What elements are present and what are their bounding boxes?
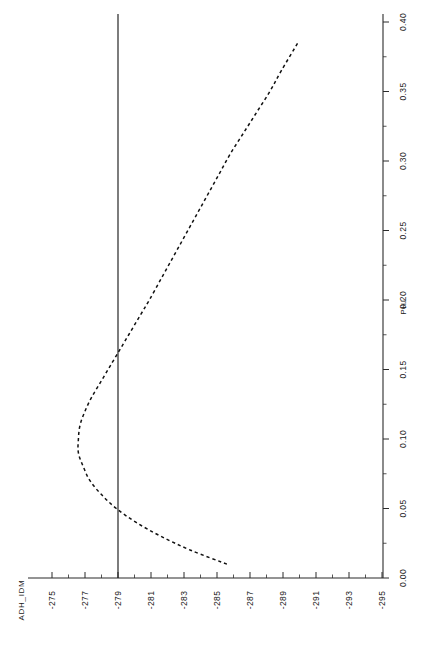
phi-axis-tick-label: 0.30 [398,152,408,170]
value-axis-tick-label: -279 [113,591,123,610]
chart-canvas: -275-277-279-281-283-285-287-289-291-293… [0,0,435,649]
phi-axis-tick-label: 0.10 [398,430,408,448]
curve-path [78,43,298,564]
chart-container: -275-277-279-281-283-285-287-289-291-293… [0,0,435,649]
value-axis-tick-label: -295 [377,591,387,610]
phi-axis-title: PHI [399,299,408,314]
value-axis [28,572,383,578]
phi-axis-tick-label: 0.05 [398,499,408,517]
value-axis-tick-label: -275 [47,591,57,610]
value-axis-title: ADH_IDM [17,580,26,621]
phi-axis-tick-label: 0.25 [398,221,408,239]
phi-axis [383,14,389,578]
value-axis-tick-label: -281 [146,591,156,610]
value-axis-tick-label: -291 [311,591,321,610]
value-axis-tick-label: -285 [212,591,222,610]
value-axis-tick-label: -289 [278,591,288,610]
value-axis-tick-label: -287 [245,591,255,610]
value-axis-tick-label: -277 [80,591,90,610]
phi-axis-tick-label: 0.40 [398,13,408,31]
axis-labels: -275-277-279-281-283-285-287-289-291-293… [17,13,408,621]
phi-axis-tick-label: 0.15 [398,360,408,378]
phi-axis-tick-label: 0.35 [398,82,408,100]
phi-axis-tick-label: 0.00 [398,569,408,587]
data-curve [78,43,298,564]
value-axis-tick-label: -293 [344,591,354,610]
value-axis-tick-label: -283 [179,591,189,610]
